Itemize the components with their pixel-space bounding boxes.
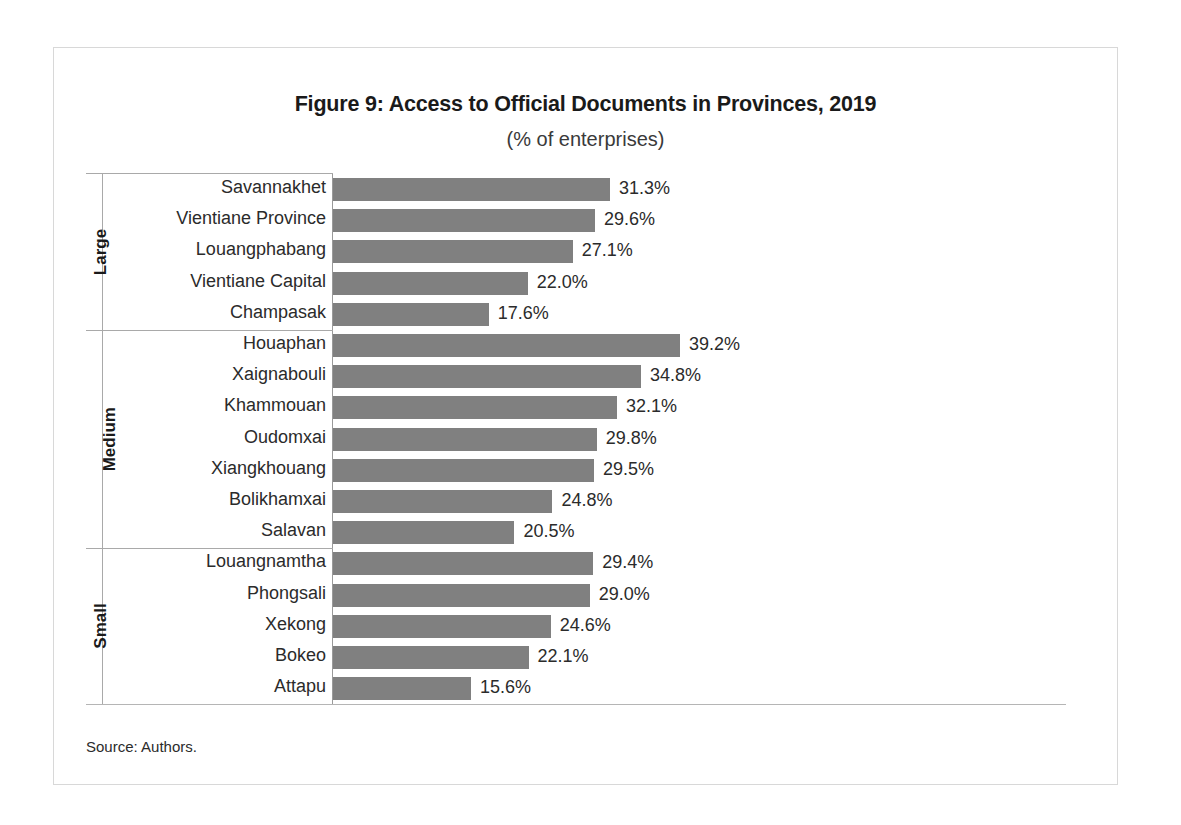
table-row: Vientiane Province29.6% [86,205,1098,236]
plot-bottom-rule [86,704,1066,705]
bar [333,584,590,607]
table-row: Bokeo22.1% [86,642,1098,673]
category-label: Houaphan [106,333,326,354]
bar-value-label: 29.5% [603,459,654,480]
bar-value-label: 34.8% [650,365,701,386]
table-row: Vientiane Capital22.0% [86,268,1098,299]
bar-value-label: 32.1% [626,396,677,417]
bar-value-label: 29.4% [602,552,653,573]
category-label: Vientiane Province [106,208,326,229]
bar [333,490,552,513]
category-label: Louangnamtha [106,551,326,572]
table-row: Louangnamtha29.4% [86,548,1098,579]
group-label-text: Medium [1,407,219,471]
bar [333,240,573,263]
bar [333,303,489,326]
table-row: Bolikhamxai24.8% [86,486,1098,517]
category-label: Bolikhamxai [106,489,326,510]
bar-value-label: 17.6% [498,303,549,324]
bar [333,396,617,419]
table-row: Phongsali29.0% [86,580,1098,611]
bar [333,428,597,451]
bar-value-label: 24.8% [561,490,612,511]
bar [333,178,610,201]
category-label: Champasak [106,302,326,323]
bar-chart-plot-area: Savannakhet31.3%Vientiane Province29.6%L… [86,173,1098,718]
category-label: Salavan [106,520,326,541]
bar [333,677,471,700]
table-row: Xaignabouli34.8% [86,361,1098,392]
bar [333,209,595,232]
table-row: Xiangkhouang29.5% [86,455,1098,486]
bar-value-label: 22.1% [538,646,589,667]
bar-value-label: 29.8% [606,428,657,449]
figure-subtitle: (% of enterprises) [54,128,1117,151]
bar-value-label: 29.0% [599,584,650,605]
bar-value-label: 31.3% [619,178,670,199]
source-note: Source: Authors. [86,738,197,755]
figure-frame: Figure 9: Access to Official Documents i… [53,47,1118,785]
bar [333,521,514,544]
bar [333,459,594,482]
category-label: Xaignabouli [106,364,326,385]
group-label-large: Large [78,174,122,330]
table-row: Oudomxai29.8% [86,424,1098,455]
table-row: Salavan20.5% [86,517,1098,548]
bar-value-label: 39.2% [689,334,740,355]
bar [333,272,528,295]
figure-title: Figure 9: Access to Official Documents i… [54,92,1117,117]
bar-value-label: 29.6% [604,209,655,230]
group-label-medium: Medium [78,330,122,548]
table-row: Xekong24.6% [86,611,1098,642]
bar [333,552,593,575]
group-label-text: Small [23,604,179,649]
group-label-small: Small [78,548,122,704]
category-label: Phongsali [106,583,326,604]
bar [333,615,551,638]
table-row: Khammouan32.1% [86,392,1098,423]
bar [333,365,641,388]
bar-value-label: 24.6% [560,615,611,636]
bar [333,334,680,357]
group-label-text: Large [23,229,179,275]
table-row: Champasak17.6% [86,299,1098,330]
bar [333,646,529,669]
bar-value-label: 15.6% [480,677,531,698]
table-row: Houaphan39.2% [86,330,1098,361]
table-row: Attapu15.6% [86,673,1098,704]
bar-value-label: 27.1% [582,240,633,261]
table-row: Louangphabang27.1% [86,236,1098,267]
category-label: Savannakhet [106,177,326,198]
bar-value-label: 20.5% [523,521,574,542]
table-row: Savannakhet31.3% [86,174,1098,205]
category-label: Attapu [106,676,326,697]
bar-value-label: 22.0% [537,272,588,293]
